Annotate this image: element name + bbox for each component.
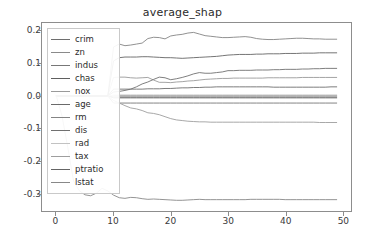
legend-line-icon <box>51 130 70 131</box>
chart-legend: crimzninduschasnoxagermdisradtaxptratiol… <box>47 28 120 194</box>
legend-line-icon <box>51 91 70 92</box>
legend-item-indus: indus <box>51 59 115 72</box>
y-tick-label: 0.0 <box>7 91 41 101</box>
legend-item-rad: rad <box>51 137 115 150</box>
y-axis: 0.20.10.0-0.1-0.2-0.3 <box>0 0 41 249</box>
y-tick-mark <box>37 96 41 97</box>
x-tick-mark <box>171 212 172 216</box>
legend-label: dis <box>75 126 87 135</box>
legend-label: lstat <box>75 178 94 187</box>
legend-line-icon <box>51 117 70 118</box>
legend-item-ptratio: ptratio <box>51 163 115 176</box>
legend-label: rad <box>75 139 89 148</box>
y-tick-mark <box>37 30 41 31</box>
chart-figure: average_shap 0.20.10.0-0.1-0.2-0.3 crimz… <box>0 0 365 249</box>
legend-label: tax <box>75 152 89 161</box>
legend-line-icon <box>51 156 70 157</box>
y-tick-label: -0.1 <box>7 123 41 133</box>
legend-label: chas <box>75 74 95 83</box>
x-tick-mark <box>343 212 344 216</box>
x-tick-mark <box>228 212 229 216</box>
legend-item-chas: chas <box>51 72 115 85</box>
legend-label: indus <box>75 61 98 70</box>
legend-line-icon <box>51 52 70 53</box>
y-tick-mark <box>37 128 41 129</box>
y-tick-label: 0.2 <box>7 25 41 35</box>
legend-label: crim <box>75 35 94 44</box>
legend-label: nox <box>75 87 90 96</box>
x-tick-label: 10 <box>93 216 133 226</box>
legend-item-dis: dis <box>51 124 115 137</box>
x-tick-mark <box>286 212 287 216</box>
y-tick-mark <box>37 161 41 162</box>
legend-item-nox: nox <box>51 85 115 98</box>
legend-item-tax: tax <box>51 150 115 163</box>
chart-title: average_shap <box>0 6 365 19</box>
y-tick-mark <box>37 63 41 64</box>
y-tick-label: -0.3 <box>7 189 41 199</box>
x-tick-label: 0 <box>35 216 75 226</box>
legend-line-icon <box>51 78 70 79</box>
legend-item-crim: crim <box>51 33 115 46</box>
legend-line-icon <box>51 104 70 105</box>
y-tick-label: -0.2 <box>7 156 41 166</box>
legend-label: ptratio <box>75 165 103 174</box>
x-tick-mark <box>55 212 56 216</box>
x-tick-label: 20 <box>151 216 191 226</box>
legend-line-icon <box>51 39 70 40</box>
y-tick-label: 0.1 <box>7 58 41 68</box>
x-tick-label: 30 <box>208 216 248 226</box>
legend-item-zn: zn <box>51 46 115 59</box>
x-tick-label: 40 <box>266 216 306 226</box>
y-tick-mark <box>37 194 41 195</box>
legend-line-icon <box>51 169 70 170</box>
legend-item-lstat: lstat <box>51 176 115 189</box>
x-tick-label: 50 <box>323 216 363 226</box>
legend-line-icon <box>51 143 70 144</box>
x-tick-mark <box>113 212 114 216</box>
legend-line-icon <box>51 182 70 183</box>
legend-label: age <box>75 100 91 109</box>
legend-label: rm <box>75 113 87 122</box>
legend-item-rm: rm <box>51 111 115 124</box>
legend-line-icon <box>51 65 70 66</box>
legend-item-age: age <box>51 98 115 111</box>
legend-label: zn <box>75 48 85 57</box>
